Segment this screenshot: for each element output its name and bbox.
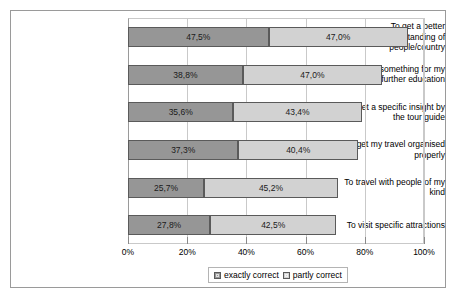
legend-label: exactly correct	[224, 270, 279, 280]
legend-swatch-icon	[283, 272, 290, 279]
bar-value-label: 45,2%	[205, 179, 337, 197]
bar-value-label: 47,0%	[270, 28, 407, 46]
bar-row: 47,5%47,0%	[128, 18, 424, 56]
bar-value-label: 35,6%	[129, 103, 232, 121]
bar-segment-exactly-correct[interactable]: 38,8%	[128, 65, 243, 85]
bar-value-label: 37,3%	[129, 141, 237, 159]
plot-area: 47,5%47,0%38,8%47,0%35,6%43,4%37,3%40,4%…	[128, 18, 424, 244]
chart-frame: To get a betterunderstanding ofpeople/co…	[10, 10, 446, 288]
x-tick-mark	[424, 237, 425, 244]
bar-segment-exactly-correct[interactable]: 47,5%	[128, 27, 269, 47]
bar-value-label: 47,5%	[129, 28, 268, 46]
bar-segment-partly-correct[interactable]: 45,2%	[204, 178, 338, 198]
bar-row: 35,6%43,4%	[128, 93, 424, 131]
x-tick-mark	[187, 237, 188, 244]
legend-item-partly-correct[interactable]: partly correct	[283, 270, 342, 280]
bar-row: 27,8%42,5%	[128, 206, 424, 244]
bar-segment-exactly-correct[interactable]: 27,8%	[128, 215, 210, 235]
x-tick-label: 60%	[286, 247, 326, 257]
x-tick-label: 80%	[345, 247, 385, 257]
bar-value-label: 40,4%	[239, 141, 357, 159]
bar-value-label: 47,0%	[244, 66, 381, 84]
x-tick-label: 100%	[404, 247, 444, 257]
bar-segment-partly-correct[interactable]: 47,0%	[269, 27, 408, 47]
bar-value-label: 27,8%	[129, 216, 209, 234]
bar-value-label: 38,8%	[129, 66, 242, 84]
bar-segment-partly-correct[interactable]: 43,4%	[233, 102, 361, 122]
x-tick-mark	[306, 237, 307, 244]
bar-value-label: 43,4%	[234, 103, 360, 121]
bar-row: 37,3%40,4%	[128, 131, 424, 169]
gridline-100	[424, 18, 425, 244]
legend-item-exactly-correct[interactable]: exactly correct	[214, 270, 279, 280]
bar-segment-partly-correct[interactable]: 40,4%	[238, 140, 358, 160]
bar-row: 38,8%47,0%	[128, 56, 424, 94]
legend-swatch-icon	[214, 272, 221, 279]
bar-segment-partly-correct[interactable]: 47,0%	[243, 65, 382, 85]
bar-segment-exactly-correct[interactable]: 25,7%	[128, 178, 204, 198]
x-tick-label: 0%	[108, 247, 148, 257]
bar-row: 25,7%45,2%	[128, 169, 424, 207]
bar-segment-partly-correct[interactable]: 42,5%	[210, 215, 336, 235]
x-tick-label: 40%	[226, 247, 266, 257]
bar-value-label: 25,7%	[129, 179, 203, 197]
x-tick-mark	[128, 237, 129, 244]
bar-value-label: 42,5%	[211, 216, 335, 234]
x-tick-mark	[365, 237, 366, 244]
legend-label: partly correct	[293, 270, 342, 280]
x-tick-label: 20%	[167, 247, 207, 257]
bar-segment-exactly-correct[interactable]: 35,6%	[128, 102, 233, 122]
chart-legend: exactly correct partly correct	[208, 267, 348, 283]
bar-segment-exactly-correct[interactable]: 37,3%	[128, 140, 238, 160]
x-tick-mark	[246, 237, 247, 244]
